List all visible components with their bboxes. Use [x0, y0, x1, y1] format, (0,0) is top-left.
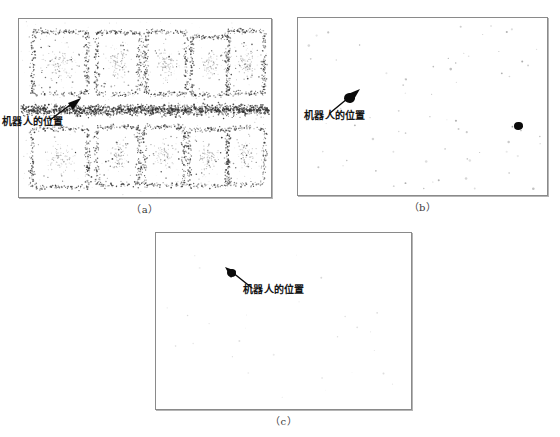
- particle-cluster-marker-b: [514, 122, 523, 130]
- robot-position-label-c: 机器人的位置: [243, 285, 305, 295]
- robot-position-marker-c: [227, 269, 236, 277]
- panel-a-caption: （a）: [18, 201, 272, 216]
- panel-c-caption: （c）: [155, 413, 412, 428]
- panel-c-border: [155, 232, 412, 410]
- panel-b: （b）: [297, 17, 548, 196]
- panel-b-caption: （b）: [297, 199, 548, 214]
- robot-position-label-b: 机器人的位置: [304, 111, 366, 121]
- panel-b-border: [297, 17, 548, 196]
- robot-position-marker-b: [344, 93, 355, 103]
- panel-a: （a）: [18, 18, 272, 198]
- robot-position-label-a: 机器人的位置: [2, 117, 64, 127]
- figure-container: （a） （b） （c）: [0, 0, 560, 437]
- panel-a-border: [18, 18, 272, 198]
- panel-c: （c）: [155, 232, 412, 410]
